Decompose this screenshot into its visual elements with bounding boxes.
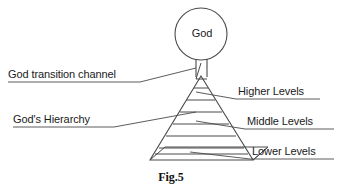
god-node-label: God [184, 27, 220, 39]
leader-line-god-transition-channel [140, 68, 196, 82]
annotation-label-lower-levels: Lower Levels [252, 145, 316, 157]
annotation-label-higher-levels: Higher Levels [238, 85, 304, 97]
annotation-label-god-transition-channel: God transition channel [8, 68, 116, 80]
figure-caption: Fig.5 [0, 170, 342, 185]
annotation-label-middle-levels: Middle Levels [247, 115, 313, 127]
leader-line-higher-levels [196, 92, 236, 99]
leader-line-middle-levels [196, 121, 245, 129]
figure-container: God God transition channel God's Hierarc… [0, 0, 342, 190]
leader-line-gods-hierarchy [114, 112, 196, 127]
leader-line-lower-levels [190, 152, 250, 159]
annotation-label-gods-hierarchy: God's Hierarchy [13, 113, 90, 125]
